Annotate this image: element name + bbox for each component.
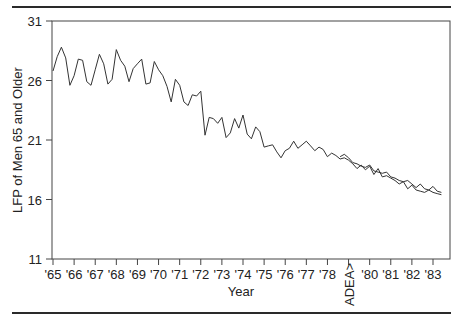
x-tick-label: '71: [171, 267, 188, 282]
x-tick-label: '68: [108, 267, 125, 282]
y-tick-label: 16: [28, 193, 42, 208]
y-tick-label: 21: [28, 133, 42, 148]
x-tick-label: '80: [361, 267, 378, 282]
plot-frame: [52, 21, 450, 259]
y-axis-title: LFP of Men 65 and Older: [10, 66, 25, 212]
x-tick-label: '75: [256, 267, 273, 282]
predicted-series-line: [340, 154, 441, 192]
x-tick-label: '65: [45, 267, 62, 282]
x-tick-label: '82: [403, 267, 420, 282]
y-tick-label: 11: [29, 252, 43, 267]
y-tick-label: 31: [28, 14, 42, 29]
x-tick-label: '67: [87, 267, 104, 282]
x-tick-label: '81: [382, 267, 399, 282]
adea-annotation: ADEA>: [342, 263, 357, 306]
x-tick-label: '74: [235, 267, 252, 282]
x-tick-label: '83: [425, 267, 442, 282]
x-tick-label: '70: [150, 267, 167, 282]
x-tick-label: '69: [129, 267, 146, 282]
x-tick-label: '72: [192, 267, 209, 282]
x-tick-label: '78: [319, 267, 336, 282]
x-tick-label: '77: [298, 267, 315, 282]
line-chart: 1116212631 '65'66'67'68'69'70'71'72'73'7…: [0, 0, 459, 320]
x-tick-label: '66: [66, 267, 83, 282]
series-lines: [53, 47, 441, 195]
x-tick-label: '76: [277, 267, 294, 282]
y-tick-label: 26: [28, 74, 42, 89]
x-axis-title: Year: [228, 284, 255, 299]
x-tick-label: '73: [213, 267, 230, 282]
y-axis: 1116212631: [28, 14, 52, 267]
